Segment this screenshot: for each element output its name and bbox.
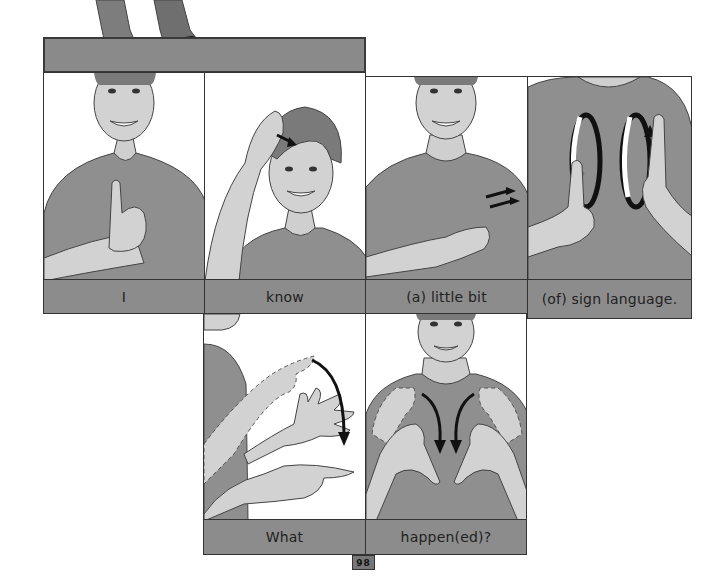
caption-what: What bbox=[203, 519, 366, 555]
caption-sign-language: (of) sign language. bbox=[527, 279, 692, 319]
page-number: 98 bbox=[352, 555, 375, 570]
illustration-sign-language bbox=[528, 77, 692, 280]
panel-sign-little-bit bbox=[365, 76, 528, 280]
illustration-sign-i bbox=[44, 73, 205, 280]
panel-sign-what bbox=[203, 313, 366, 520]
panel-sign-language bbox=[527, 76, 692, 280]
illustration-sign-happen bbox=[366, 314, 527, 520]
illustration-sign-little-bit bbox=[366, 77, 528, 280]
illustration-sign-what bbox=[204, 314, 366, 520]
caption-know: know bbox=[204, 279, 366, 314]
panel-sign-i bbox=[43, 72, 205, 280]
caption-i: I bbox=[43, 279, 205, 314]
caption-little-bit: (a) little bit bbox=[365, 279, 528, 314]
panel-sign-happen bbox=[365, 313, 527, 520]
illustration-sign-know bbox=[205, 73, 366, 280]
caption-happened: happen(ed)? bbox=[365, 519, 527, 555]
panel-sign-know bbox=[204, 72, 366, 280]
top-bar bbox=[43, 37, 366, 73]
